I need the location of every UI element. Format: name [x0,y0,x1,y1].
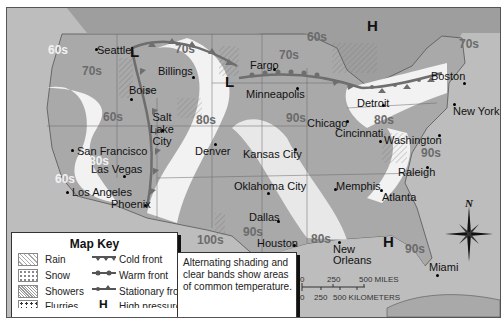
city-dot [338,241,341,244]
city-dot [463,82,466,85]
city-dot [192,76,195,79]
city-dot [296,87,299,90]
city-dot [214,143,217,146]
city-label: New Orleans [333,244,373,266]
city-dot [334,188,337,191]
city-dot [130,98,133,101]
temp-label: 60s [103,111,123,123]
city-label: New York [453,106,499,117]
key-warm-front: Warm front [119,270,168,281]
key-cold-front: Cold front [119,254,162,265]
temp-label: 70s [279,49,299,61]
city-dot [346,120,349,123]
temp-label: 80s [196,114,216,126]
city-dot [380,189,383,192]
low-pressure-marker: L [225,74,234,89]
city-dot [267,192,270,195]
city-dot [379,140,382,143]
city-label: Boston [431,71,465,82]
city-label: Houston [257,238,298,249]
map-key-title: Map Key [12,237,177,251]
city-dot [436,274,439,277]
city-dot [161,129,164,132]
city-label: Billings [158,66,193,77]
city-label: Atlanta [382,192,416,203]
key-snow: Snow [45,270,70,281]
temp-label: 90s [405,243,425,255]
temp-label: 90s [421,147,441,159]
city-label: Las Vegas [91,164,142,175]
city-dot [277,220,280,223]
temp-label: 60s [48,44,68,56]
city-label: Dallas [249,212,280,223]
temperature-note-text: Alternating shading and clear bands show… [183,257,295,293]
city-dot [453,103,456,106]
key-showers: Showers [45,286,84,297]
scale-km-250: 250 [314,293,327,302]
compass-rose [445,206,493,262]
map-key-extension [11,308,178,316]
temp-label: 80s [311,233,331,245]
temp-label: 100s [197,234,224,246]
weather-map: 60s 70s 70s 60s 70s 70s 60s 80s 60s 80s … [6,7,501,318]
city-dot [382,104,385,107]
showers-swatch [18,285,38,298]
city-label: Raleigh [398,167,435,178]
city-label: Memphis [336,181,381,192]
city-label: Los Angeles [72,187,132,198]
scale-miles-250: 250 [327,275,340,284]
snow-swatch [18,269,38,282]
city-dot [123,175,126,178]
scale-miles-500: 500 MILES [359,275,399,284]
temp-label: 70s [175,43,195,55]
temp-label: 60s [55,173,75,185]
city-dot [273,68,276,71]
temp-label: 90s [286,112,306,124]
city-label: Minneapolis [246,89,305,100]
city-label: Cincinnati [335,128,383,139]
temp-label: 70s [459,38,479,50]
title-strip [0,0,503,6]
city-label: Boise [129,85,157,96]
city-dot [438,134,441,137]
rain-swatch [18,253,38,266]
high-pressure-marker: H [383,234,394,249]
city-dot [293,244,296,247]
city-dot [95,48,98,51]
city-dot [426,166,429,169]
scale-miles-0: 0 [300,275,304,284]
temp-label: 70s [82,65,102,77]
temp-label: 80s [374,114,394,126]
city-dot [144,204,147,207]
temp-label: 60s [307,31,327,43]
map-key: Map Key Rain Snow Showers Flurries Cold … [11,232,178,318]
city-label: Kansas City [243,149,302,160]
compass-north-label: N [465,198,473,209]
city-dot [294,148,297,151]
city-label: Miami [429,262,458,273]
city-dot [71,149,74,152]
temperature-note: Alternating shading and clear bands show… [177,252,297,318]
city-dot [66,191,69,194]
key-rain: Rain [45,254,66,265]
high-pressure-marker: H [367,18,378,33]
city-label: Washington [384,135,442,146]
low-pressure-marker: L [130,44,139,59]
city-label: Seattle [97,45,131,56]
scale-km-0: 0 [300,293,304,302]
city-label: San Francisco [77,146,147,157]
city-label: Oklahoma City [234,181,306,192]
city-label: Denver [195,146,230,157]
scale-km-500: 500 KILOMETERS [333,293,400,302]
